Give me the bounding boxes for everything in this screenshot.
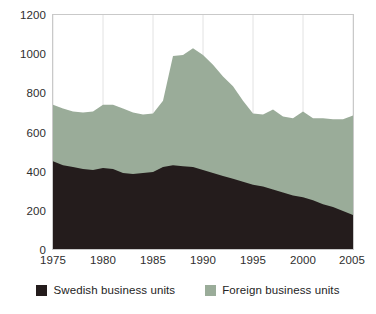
legend-swatch-swedish-icon [36, 285, 47, 296]
plot-area [52, 14, 354, 250]
y-tick-label: 1000 [2, 49, 46, 61]
x-tick-label: 2000 [283, 254, 323, 266]
legend-entry-swedish: Swedish business units [36, 284, 175, 296]
x-tick-label: 1985 [133, 254, 173, 266]
legend-label-swedish: Swedish business units [53, 284, 175, 296]
x-tick-label: 1975 [33, 254, 73, 266]
x-tick-label: 1980 [83, 254, 123, 266]
legend-entry-foreign: Foreign business units [205, 284, 339, 296]
x-tick-label: 1995 [233, 254, 273, 266]
plot-svg [53, 15, 353, 249]
legend-swatch-foreign-icon [205, 285, 216, 296]
x-tick-label: 1990 [183, 254, 223, 266]
x-tick-label: 2005 [332, 254, 372, 266]
legend-label-foreign: Foreign business units [222, 284, 339, 296]
stacked-area-chart: 1200 1000 800 600 400 200 0 1975 1980 19… [0, 0, 376, 314]
y-tick-label: 600 [2, 128, 46, 140]
y-tick-label: 1200 [2, 10, 46, 22]
chart-legend: Swedish business units Foreign business … [0, 284, 376, 296]
y-tick-label: 800 [2, 88, 46, 100]
y-tick-label: 200 [2, 206, 46, 218]
y-tick-label: 400 [2, 167, 46, 179]
